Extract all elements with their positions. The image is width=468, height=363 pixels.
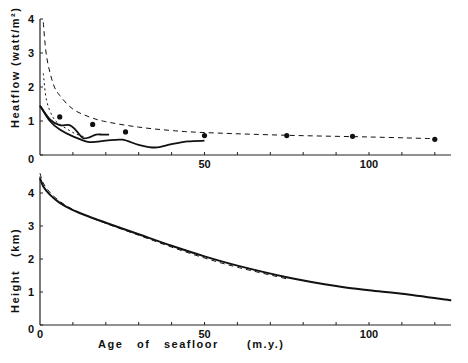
series-line xyxy=(43,22,435,138)
heatflow-ylabel: Heatflow xyxy=(9,70,21,128)
height-yunit: (km) xyxy=(9,228,21,257)
y-tick-label: 4 xyxy=(28,13,35,25)
y-tick-label: 1 xyxy=(28,115,34,127)
y-tick-label: 3 xyxy=(28,47,34,59)
y-tick-label: 3 xyxy=(28,220,34,232)
data-point xyxy=(350,134,355,139)
height-ylabel: Height xyxy=(9,270,21,313)
heatflow-panel: 5010001234 xyxy=(28,13,451,170)
x-tick-label: 100 xyxy=(360,158,378,170)
y-tick-label: 1 xyxy=(28,286,34,298)
series-line xyxy=(40,178,451,300)
data-point xyxy=(284,133,289,138)
y-tick-label: 0 xyxy=(28,153,34,165)
y-tick-label: 4 xyxy=(28,187,35,199)
y-tick-label: 2 xyxy=(28,253,34,265)
seafloor-chart: 5010001234 05010001234 Heatflow (watt/m²… xyxy=(0,0,468,363)
data-point xyxy=(432,137,437,142)
data-point xyxy=(57,114,62,119)
x-axis-unit: (m.y.) xyxy=(247,338,285,350)
series-line xyxy=(43,73,86,137)
y-tick-label: 0 xyxy=(28,323,34,335)
heatflow-yunit: (watt/m²) xyxy=(9,7,21,66)
x-tick-label: 0 xyxy=(37,328,43,340)
x-axis-label: Age of seafloor xyxy=(98,338,219,350)
data-point xyxy=(90,122,95,127)
data-point xyxy=(202,133,207,138)
series-line xyxy=(40,106,205,148)
x-tick-label: 50 xyxy=(198,158,210,170)
height-panel: 05010001234 xyxy=(28,173,451,340)
series-line xyxy=(40,173,287,279)
data-point xyxy=(123,129,128,134)
x-tick-label: 100 xyxy=(360,328,378,340)
y-tick-label: 2 xyxy=(28,81,34,93)
